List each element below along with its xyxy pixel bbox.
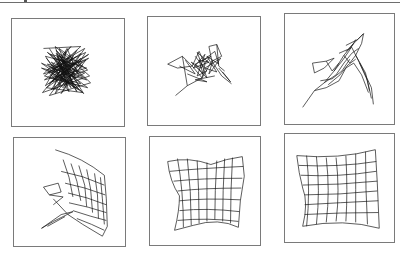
partially-unfolded-grid-plot [14, 138, 125, 246]
panel-6-near-regular-grid [284, 133, 395, 243]
top-rule [0, 2, 400, 3]
panel-4-partially-unfolded [13, 137, 126, 247]
regular-grid-plot [285, 134, 394, 242]
panel-3-folding [284, 13, 395, 125]
folding-mesh-plot [285, 14, 394, 124]
panel-2-partial-cluster [147, 16, 261, 126]
panel-5-warped-grid [149, 136, 261, 246]
panel-1-random-tangle [11, 18, 125, 127]
clustered-mesh-plot [148, 17, 260, 125]
cut-off-caption-fragment [24, 0, 27, 2]
warped-grid-plot [150, 137, 260, 245]
tangled-mesh-plot [12, 19, 124, 126]
